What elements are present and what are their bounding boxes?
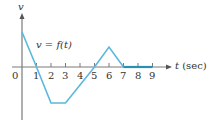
tick-label-5: 5 [91,71,97,81]
tick-label-7: 7 [120,71,126,81]
t-axis-label: t (sec) [175,61,207,71]
t-axis-unit: (sec) [182,60,206,71]
v-axis-label: v [18,2,24,12]
curve-label: v = f(t) [36,40,72,50]
tick-label-9: 9 [149,71,155,81]
tick-label-1: 1 [33,71,39,81]
v-axis-arrow-icon [20,13,25,19]
tick-label-3: 3 [62,71,68,81]
tick-label-0: 0 [12,71,18,81]
curve-label-text: v = f(t) [36,39,72,50]
t-axis-arrow-icon [166,65,172,70]
tick-label-4: 4 [77,71,83,81]
tick-label-6: 6 [106,71,112,81]
tick-label-8: 8 [135,71,141,81]
tick-label-2: 2 [48,71,54,81]
t-axis-var: t [175,60,179,71]
